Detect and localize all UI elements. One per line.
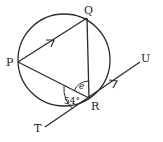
angle-label-e: e [79, 81, 84, 91]
circle-geometry-diagram: P Q R T U 54° e [0, 0, 163, 142]
label-U: U [141, 52, 150, 65]
label-P: P [6, 56, 14, 69]
label-Q: Q [84, 4, 93, 17]
label-T: T [34, 122, 42, 135]
segment-PR [18, 62, 89, 98]
angle-label-54: 54° [64, 96, 80, 106]
tangent-TU [45, 62, 140, 127]
label-R: R [91, 100, 100, 113]
segment-QR [87, 18, 89, 98]
